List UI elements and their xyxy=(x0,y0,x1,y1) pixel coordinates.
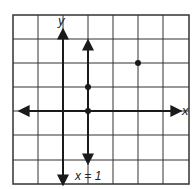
x-axis-label: x xyxy=(181,103,189,118)
vertical-line-label: x = 1 xyxy=(74,169,101,183)
point-3-2 xyxy=(135,60,141,66)
grid xyxy=(13,15,189,184)
point-1-1 xyxy=(85,84,91,90)
coordinate-graph: y x x = 1 xyxy=(0,0,195,189)
point-1-0 xyxy=(85,108,91,114)
